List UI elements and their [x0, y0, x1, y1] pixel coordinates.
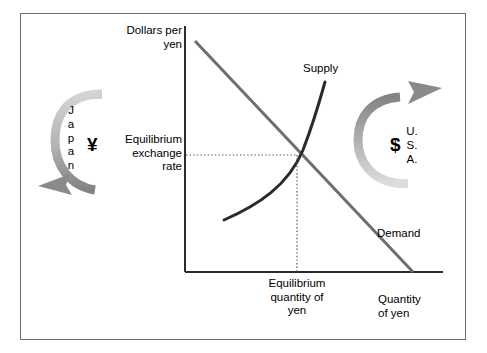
supply-curve	[224, 82, 325, 220]
demand-curve-label: Demand	[377, 227, 420, 241]
x-axis-title: Quantity of yen	[378, 293, 458, 320]
supply-curve-label: Supply	[303, 62, 338, 76]
yen-currency-symbol: ¥	[87, 134, 98, 156]
dollar-currency-symbol: $	[390, 134, 401, 156]
usa-label: U. S. A.	[405, 124, 419, 166]
equilibrium-quantity-label: Equilibrium quantity of yen	[240, 277, 354, 318]
diagram-canvas: Dollars per yen Equilibrium exchange rat…	[0, 0, 487, 353]
japan-label: J a p a n	[64, 104, 78, 173]
y-axis-title: Dollars per yen	[64, 24, 182, 51]
